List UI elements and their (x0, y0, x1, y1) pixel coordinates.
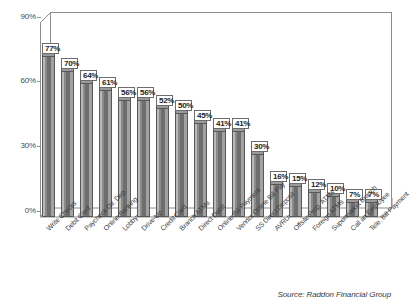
x-axis-label: Lobby (121, 214, 139, 232)
source-note: Source: Raddon Financial Group (277, 290, 391, 299)
x-axis-label: AVRU (273, 214, 291, 232)
